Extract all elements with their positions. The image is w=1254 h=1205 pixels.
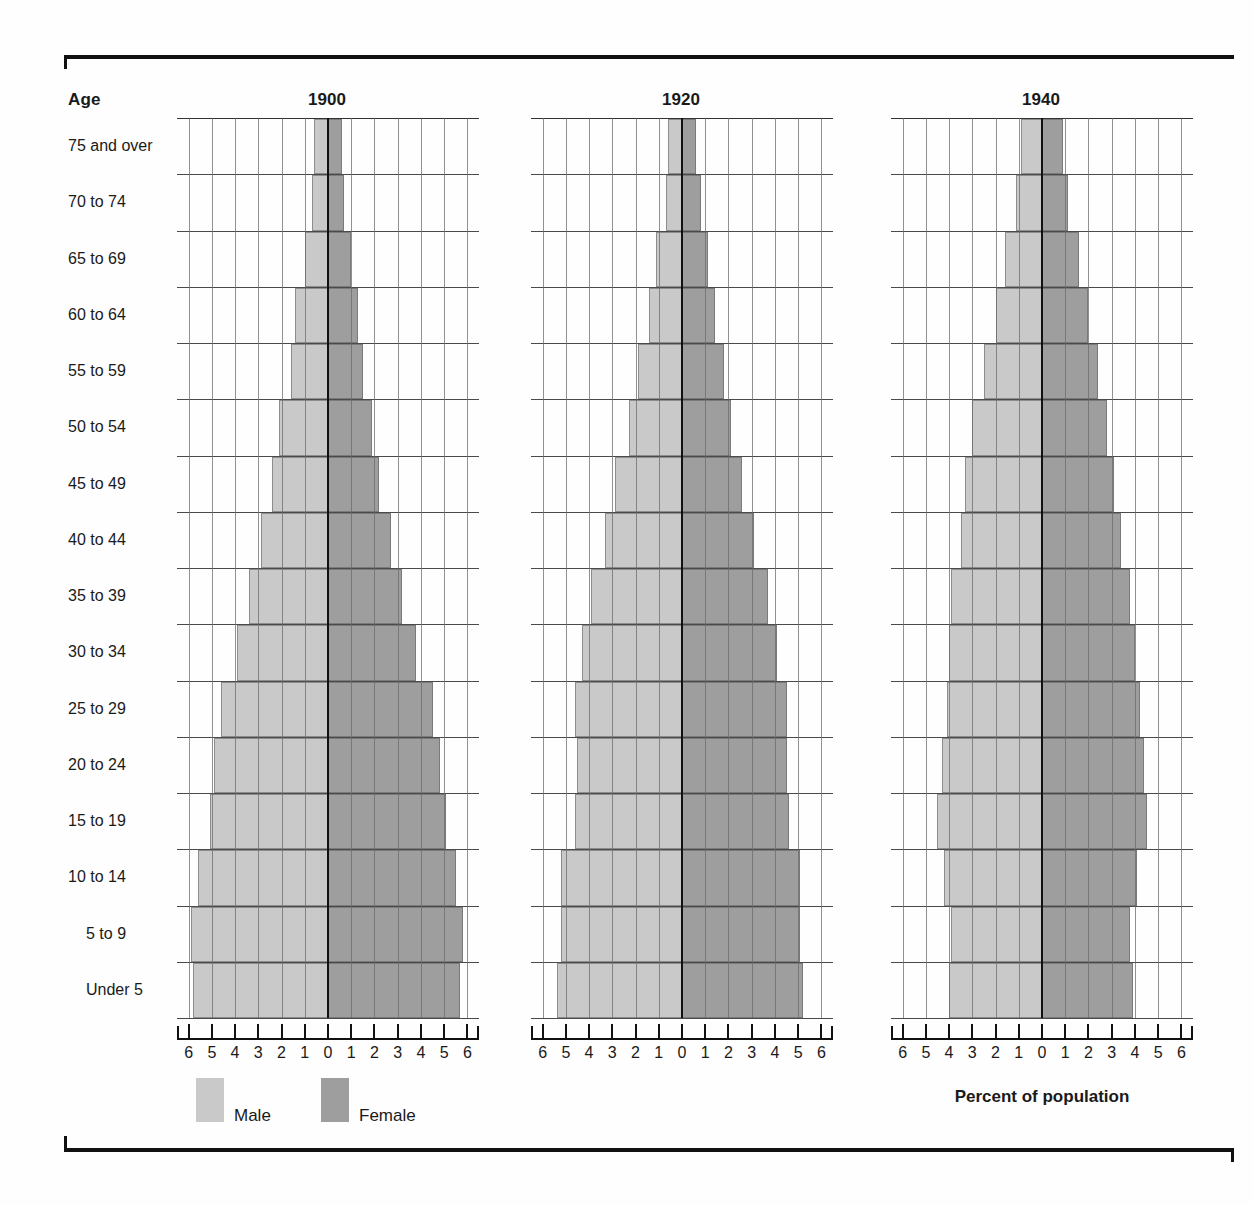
- bar-male: [1016, 175, 1042, 230]
- axis-tick-label: 5: [553, 1044, 579, 1062]
- bar-male: [557, 963, 682, 1018]
- plot-area: [891, 118, 1193, 1018]
- x-axis-1940: 6543210123456: [891, 1018, 1193, 1058]
- axis-tick: [681, 1024, 683, 1039]
- bar-male: [984, 344, 1042, 399]
- value-gridline: [728, 118, 729, 1018]
- bar-male: [312, 175, 328, 230]
- bar-female: [1042, 963, 1133, 1018]
- bar-female: [1042, 850, 1137, 905]
- bar-male: [237, 625, 328, 680]
- legend-swatch-female: [321, 1078, 349, 1122]
- axis-tick-label: 2: [623, 1044, 649, 1062]
- value-gridline: [752, 118, 753, 1018]
- age-label-column: 75 and over70 to 7465 to 6960 to 6455 to…: [68, 118, 178, 1018]
- bar-male: [951, 907, 1042, 962]
- axis-tick-label: 1: [292, 1044, 318, 1062]
- axis-tick-label: 6: [890, 1044, 916, 1062]
- axis-tick-label: 3: [739, 1044, 765, 1062]
- age-group-label: 30 to 34: [68, 644, 178, 660]
- axis-tick: [188, 1024, 190, 1039]
- value-gridline: [926, 118, 927, 1018]
- axis-tick-label: 3: [1099, 1044, 1125, 1062]
- value-gridline: [612, 118, 613, 1018]
- value-gridline: [467, 118, 468, 1018]
- pyramid-panel-1940: [891, 118, 1193, 1018]
- axis-tick: [420, 1024, 422, 1039]
- axis-tick-label: 5: [785, 1044, 811, 1062]
- bar-female: [1042, 232, 1079, 287]
- x-axis-1900: 6543210123456: [177, 1018, 479, 1058]
- value-gridline: [566, 118, 567, 1018]
- age-group-label: 25 to 29: [68, 701, 178, 717]
- age-group-label: 20 to 24: [68, 757, 178, 773]
- axis-tick: [727, 1024, 729, 1039]
- bar-female: [328, 625, 416, 680]
- axis-tick-label: 0: [669, 1044, 695, 1062]
- axis-tick: [350, 1024, 352, 1039]
- axis-tick: [971, 1024, 973, 1039]
- axis-tick-label: 6: [454, 1044, 480, 1062]
- top-rule: [64, 55, 1234, 59]
- legend-label-female: Female: [359, 1106, 416, 1126]
- value-gridline: [235, 118, 236, 1018]
- bar-male: [591, 569, 682, 624]
- chart-page: Age 75 and over70 to 7465 to 6960 to 645…: [0, 0, 1254, 1205]
- bar-female: [682, 457, 742, 512]
- axis-tick: [1111, 1024, 1113, 1039]
- bar-male: [198, 850, 328, 905]
- axis-tick: [257, 1024, 259, 1039]
- bar-female: [682, 794, 789, 849]
- panel-title-1900: 1900: [177, 90, 477, 110]
- value-gridline: [1158, 118, 1159, 1018]
- age-group-label: 50 to 54: [68, 419, 178, 435]
- bar-female: [682, 288, 715, 343]
- bar-female: [328, 850, 456, 905]
- bar-female: [328, 794, 446, 849]
- bar-female: [328, 119, 342, 174]
- value-gridline: [903, 118, 904, 1018]
- bar-female: [1042, 907, 1130, 962]
- bar-female: [682, 119, 696, 174]
- bar-female: [1042, 400, 1107, 455]
- bar-male: [615, 457, 682, 512]
- bar-male: [261, 513, 328, 568]
- axis-tick-label: 4: [576, 1044, 602, 1062]
- axis-tick-label: 3: [599, 1044, 625, 1062]
- bar-male: [291, 344, 328, 399]
- axis-tick: [925, 1024, 927, 1039]
- axis-tick-label: 4: [936, 1044, 962, 1062]
- bar-male: [629, 400, 682, 455]
- pyramid-panel-1900: [177, 118, 479, 1018]
- bar-female: [1042, 569, 1130, 624]
- axis-tick-label: 1: [1006, 1044, 1032, 1062]
- value-gridline: [212, 118, 213, 1018]
- value-gridline: [189, 118, 190, 1018]
- axis-tick-label: 6: [176, 1044, 202, 1062]
- bar-female: [328, 232, 351, 287]
- bar-female: [682, 850, 800, 905]
- bar-male: [561, 850, 682, 905]
- axis-tick-label: 6: [530, 1044, 556, 1062]
- age-group-label: 40 to 44: [68, 532, 178, 548]
- bar-male: [577, 738, 682, 793]
- axis-tick-label: 2: [361, 1044, 387, 1062]
- value-gridline: [589, 118, 590, 1018]
- axis-tick-label: 4: [408, 1044, 434, 1062]
- axis-tick-label: 2: [715, 1044, 741, 1062]
- axis-tick: [542, 1024, 544, 1039]
- bottom-rule: [64, 1148, 1234, 1152]
- value-gridline: [705, 118, 706, 1018]
- axis-tick: [443, 1024, 445, 1039]
- axis-tick: [466, 1024, 468, 1039]
- axis-end-cap-right: [477, 1026, 479, 1040]
- age-group-label: 45 to 49: [68, 476, 178, 492]
- axis-tick: [611, 1024, 613, 1039]
- value-gridline: [258, 118, 259, 1018]
- axis-tick-label: 2: [1075, 1044, 1101, 1062]
- value-gridline: [305, 118, 306, 1018]
- bar-male: [305, 232, 328, 287]
- bar-male: [666, 175, 682, 230]
- axis-end-cap-left: [531, 1026, 533, 1040]
- bar-female: [682, 513, 754, 568]
